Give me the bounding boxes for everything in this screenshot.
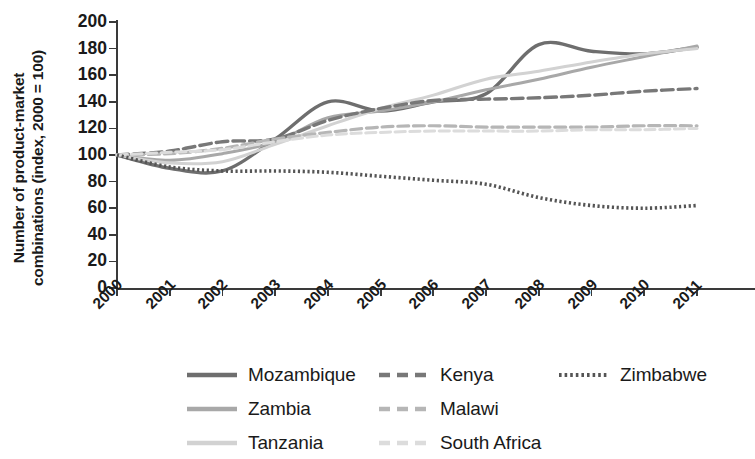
y-tick-label: 100 (9, 146, 107, 164)
legend-label: Tanzania (248, 432, 323, 454)
y-tick-label: 200 (9, 13, 107, 31)
y-tick-label-wrap: 100 (0, 146, 107, 147)
y-tick-label: 40 (9, 226, 107, 244)
y-tick-label-wrap: 80 (0, 173, 107, 174)
y-tick-label-wrap: 180 (0, 40, 107, 41)
chart-figure: Number of product-market combinations (i… (0, 0, 755, 459)
legend-item[interactable]: Zimbabwe (558, 360, 707, 390)
legend-label: Malawi (440, 398, 499, 420)
legend-swatch-icon (186, 402, 238, 416)
y-tick (109, 74, 117, 76)
legend-swatch-icon (378, 368, 430, 382)
legend-item[interactable]: South Africa (378, 428, 541, 458)
y-tick (109, 234, 117, 236)
legend-swatch-icon (378, 436, 430, 450)
y-tick-label-wrap: 200 (0, 13, 107, 14)
legend-item[interactable]: Kenya (378, 360, 493, 390)
y-tick-label: 0 (9, 279, 107, 297)
y-tick-label: 180 (9, 40, 107, 58)
legend-swatch-icon (186, 436, 238, 450)
y-tick (109, 48, 117, 50)
y-tick-label: 140 (9, 93, 107, 111)
legend-label: Mozambique (248, 364, 356, 386)
legend-label: South Africa (440, 432, 541, 454)
y-tick-label-wrap: 140 (0, 93, 107, 94)
y-axis-title-line2: combinations (index, 2000 = 100) (28, 50, 47, 286)
legend-item[interactable]: Tanzania (186, 428, 323, 458)
y-tick-label-wrap: 0 (0, 279, 107, 280)
legend-label: Zambia (248, 398, 311, 420)
legend-item[interactable]: Malawi (378, 394, 499, 424)
legend-item[interactable]: Mozambique (186, 360, 356, 390)
y-axis-title: Number of product-market combinations (i… (0, 18, 58, 318)
legend-swatch-icon (378, 402, 430, 416)
series-lines (117, 22, 697, 288)
y-tick (109, 207, 117, 209)
y-tick-label: 80 (9, 173, 107, 191)
y-tick (109, 261, 117, 263)
y-tick (109, 128, 117, 130)
y-tick-label: 20 (9, 252, 107, 270)
y-tick-label-wrap: 40 (0, 226, 107, 227)
y-tick-label-wrap: 60 (0, 199, 107, 200)
series-line-south-africa (117, 128, 697, 155)
series-line-kenya (117, 89, 697, 156)
y-tick (109, 181, 117, 183)
y-tick-label-wrap: 120 (0, 119, 107, 120)
y-tick-label: 160 (9, 66, 107, 84)
legend-swatch-icon (186, 368, 238, 382)
y-tick-label-wrap: 20 (0, 252, 107, 253)
legend-swatch-icon (558, 368, 610, 382)
y-tick-label: 60 (9, 199, 107, 217)
chart-legend: MozambiqueZambiaTanzaniaKenyaMalawiSouth… (186, 360, 746, 458)
y-tick-label-wrap: 160 (0, 66, 107, 67)
legend-label: Kenya (440, 364, 493, 386)
y-tick (109, 101, 117, 103)
y-tick (109, 21, 117, 23)
y-tick-label: 120 (9, 119, 107, 137)
legend-label: Zimbabwe (620, 364, 707, 386)
legend-item[interactable]: Zambia (186, 394, 311, 424)
plot-area (117, 22, 697, 288)
